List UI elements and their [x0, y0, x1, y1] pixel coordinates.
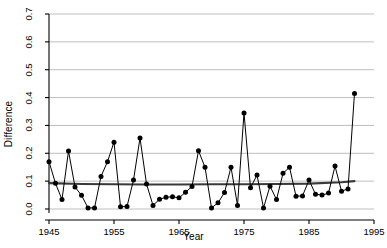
- gridlines: [49, 14, 374, 209]
- data-point: [183, 190, 188, 195]
- y-tick-label: 0.4: [23, 84, 35, 112]
- data-point: [131, 178, 136, 183]
- data-point: [216, 200, 221, 205]
- data-point: [196, 148, 201, 153]
- data-point: [261, 205, 266, 210]
- y-tick-label: 0.6: [23, 28, 35, 56]
- data-point: [53, 181, 58, 186]
- x-tick-label: 1955: [94, 226, 134, 238]
- data-point: [47, 159, 52, 164]
- data-point: [144, 181, 149, 186]
- data-point: [242, 110, 247, 115]
- data-point: [164, 195, 169, 200]
- data-point: [320, 193, 325, 198]
- data-point: [112, 140, 117, 145]
- data-point: [190, 184, 195, 189]
- data-points: [47, 91, 358, 211]
- data-point: [352, 91, 357, 96]
- y-tick-label: 0.3: [23, 111, 35, 139]
- data-point: [333, 164, 338, 169]
- data-point: [294, 194, 299, 199]
- data-point: [79, 193, 84, 198]
- data-point: [313, 192, 318, 197]
- data-line: [49, 93, 355, 208]
- y-tick-label: 0.5: [23, 56, 35, 84]
- data-point: [73, 184, 78, 189]
- data-point: [222, 190, 227, 195]
- data-point: [125, 204, 130, 209]
- data-point: [281, 171, 286, 176]
- y-tick-label: 0.2: [23, 139, 35, 167]
- x-tick-label: 1995: [354, 226, 387, 238]
- data-point: [66, 149, 71, 154]
- y-tick-label: 0.1: [23, 167, 35, 195]
- data-point: [346, 186, 351, 191]
- data-point: [157, 197, 162, 202]
- data-point: [248, 185, 253, 190]
- data-point: [92, 205, 97, 210]
- y-tick-label: 0.7: [23, 0, 35, 28]
- data-point: [274, 197, 279, 202]
- y-tick-label: 0.0: [23, 195, 35, 223]
- line-chart-plot: [0, 0, 387, 248]
- data-point: [203, 165, 208, 170]
- data-point: [326, 191, 331, 196]
- data-point: [170, 194, 175, 199]
- data-point: [99, 174, 104, 179]
- data-point: [255, 173, 260, 178]
- data-point: [60, 197, 65, 202]
- x-tick-label: 1975: [224, 226, 264, 238]
- x-tick-label: 1985: [289, 226, 329, 238]
- data-point: [229, 165, 234, 170]
- data-point: [138, 135, 143, 140]
- chart-container: Difference Year 0.00.10.20.30.40.50.60.7…: [0, 0, 387, 248]
- data-point: [86, 205, 91, 210]
- data-point: [307, 178, 312, 183]
- data-point: [105, 159, 110, 164]
- data-point: [118, 204, 123, 209]
- data-point: [235, 203, 240, 208]
- data-point: [151, 203, 156, 208]
- x-tick-label: 1965: [159, 226, 199, 238]
- x-tick-label: 1945: [29, 226, 69, 238]
- data-point: [177, 195, 182, 200]
- data-point: [268, 184, 273, 189]
- data-point: [287, 165, 292, 170]
- data-point: [209, 205, 214, 210]
- data-point: [339, 189, 344, 194]
- data-point: [300, 193, 305, 198]
